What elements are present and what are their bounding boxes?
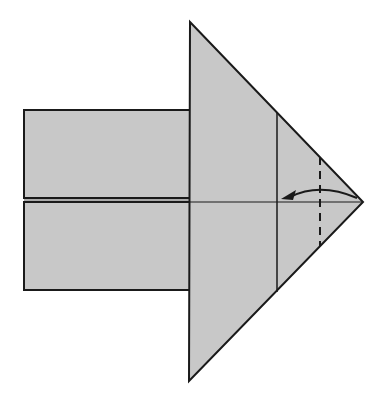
- origami-diagram: [0, 0, 380, 403]
- origami-figure: [0, 0, 380, 403]
- left-flap-lower: [24, 202, 190, 290]
- left-flap-upper: [24, 110, 190, 198]
